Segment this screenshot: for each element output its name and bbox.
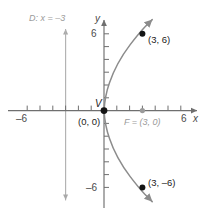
- point-label-3-6: (3, 6): [148, 35, 170, 45]
- x-tick-label-6: 6: [181, 114, 187, 124]
- focus-label: F = (3, 0): [124, 118, 161, 127]
- graph-canvas: [0, 0, 211, 214]
- y-tick-label-6: 6: [91, 29, 97, 39]
- vertex-point-label: (0, 0): [78, 117, 100, 127]
- x-axis-label: x: [193, 114, 198, 124]
- point-label-3-neg6: (3, –6): [148, 178, 175, 188]
- y-axis-label: y: [95, 14, 100, 24]
- vertex-mark-label: V: [95, 99, 102, 109]
- x-tick-label-neg6: –6: [16, 114, 27, 124]
- parabola-figure: D: x = –3 y 6 –6 –6 6 x V (0, 0) F = (3,…: [0, 0, 211, 214]
- directrix-label: D: x = –3: [29, 14, 65, 23]
- y-tick-label-neg6: –6: [86, 183, 97, 193]
- point-marker-3-neg6: [139, 184, 145, 190]
- focus-marker: [140, 108, 145, 113]
- point-marker-3-6: [139, 31, 145, 37]
